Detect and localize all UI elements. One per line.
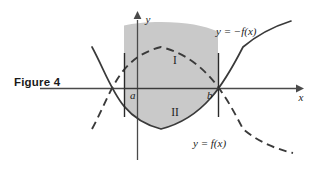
- curve-label-negative-f: y = −f(x): [215, 25, 257, 38]
- shaded-area-group: [92, 22, 243, 129]
- right-bound-label: b: [207, 89, 213, 101]
- y-axis-arrowhead: [134, 11, 142, 19]
- plot-canvas: x y a b I II y = −f(x) y = f(x): [0, 0, 321, 172]
- figure-container: Figure 4 x y a b I: [0, 0, 321, 172]
- y-axis-label: y: [145, 13, 151, 25]
- left-bound-label: a: [130, 89, 136, 101]
- region-label-two: II: [171, 106, 179, 118]
- x-axis-label: x: [298, 91, 304, 103]
- region-label-one: I: [173, 54, 177, 66]
- curve-label-f: y = f(x): [192, 137, 226, 150]
- shaded-region-band: [92, 22, 243, 129]
